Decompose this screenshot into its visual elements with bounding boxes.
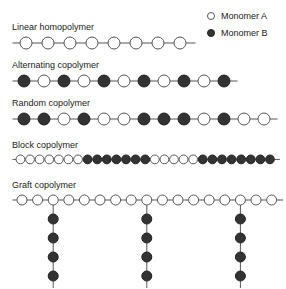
monomer-a-node <box>33 195 43 205</box>
monomer-b-node <box>256 155 265 164</box>
polymer-row-label: Alternating copolymer <box>12 60 238 71</box>
monomer-b-node <box>246 155 255 164</box>
monomer-a-node <box>267 195 277 205</box>
monomer-b-node <box>235 252 245 262</box>
monomer-a-node <box>170 155 179 164</box>
monomer-b-node <box>112 155 121 164</box>
monomer-a-node <box>16 155 25 164</box>
monomer-a-node <box>126 195 136 205</box>
polymer-chain <box>12 112 278 128</box>
polymer-chain <box>12 36 196 52</box>
monomer-a-node <box>160 155 169 164</box>
polymer-row: Random copolymer <box>12 98 278 128</box>
monomer-b-node <box>48 271 58 281</box>
monomer-a-node <box>64 37 76 49</box>
monomer-b-node <box>237 155 246 164</box>
monomer-b-node <box>142 233 152 243</box>
monomer-b-node <box>227 155 236 164</box>
monomer-a-node <box>79 195 89 205</box>
monomer-a-node <box>118 75 130 87</box>
monomer-b-node <box>83 155 92 164</box>
monomer-b-node <box>235 271 245 281</box>
legend-label-monomer-b: Monomer B <box>221 28 268 39</box>
monomer-a-node <box>142 195 152 205</box>
monomer-b-node <box>218 113 230 125</box>
monomer-a-node <box>173 195 183 205</box>
monomer-a-node <box>64 155 73 164</box>
polymer-chain <box>12 154 280 167</box>
monomer-b-node <box>98 75 110 87</box>
monomer-b-node <box>142 252 152 262</box>
monomer-b-node <box>18 75 30 87</box>
polymer-row: Block copolymer <box>12 140 280 167</box>
polymer-row: Linear homopolymer <box>12 22 196 52</box>
monomer-a-node <box>64 195 74 205</box>
polymer-row: Alternating copolymer <box>12 60 238 90</box>
monomer-a-node <box>20 37 32 49</box>
monomer-a-node <box>98 113 110 125</box>
monomer-a-node <box>118 113 130 125</box>
polymer-row-label: Linear homopolymer <box>12 22 196 33</box>
legend-label-monomer-a: Monomer A <box>221 11 267 22</box>
monomer-b-node <box>266 155 275 164</box>
monomer-a-node <box>157 195 167 205</box>
monomer-a-node <box>158 75 170 87</box>
legend-item-monomer-a: Monomer A <box>207 10 268 22</box>
monomer-b-node <box>208 155 217 164</box>
monomer-a-node <box>26 155 35 164</box>
monomer-a-node <box>130 37 142 49</box>
monomer-b-node <box>138 75 150 87</box>
monomer-b-node <box>218 75 230 87</box>
polymer-row-label: Block copolymer <box>12 140 280 151</box>
monomer-b-node <box>141 155 150 164</box>
monomer-a-node <box>17 195 27 205</box>
monomer-a-node <box>42 37 54 49</box>
monomer-a-node <box>95 195 105 205</box>
monomer-b-node <box>158 113 170 125</box>
monomer-b-node <box>178 75 190 87</box>
monomer-a-node <box>54 155 63 164</box>
monomer-a-node <box>35 155 44 164</box>
monomer-b-node <box>48 214 58 224</box>
polymer-row: Graft copolymer <box>12 180 284 289</box>
monomer-b-node <box>78 113 90 125</box>
monomer-b-node <box>122 155 131 164</box>
monomer-b-node <box>198 155 207 164</box>
polymer-row-label: Graft copolymer <box>12 180 284 191</box>
monomer-a-node <box>86 37 98 49</box>
monomer-a-node <box>204 195 214 205</box>
monomer-a-node <box>78 75 90 87</box>
monomer-a-node <box>152 37 164 49</box>
monomer-a-node <box>258 113 270 125</box>
polymer-chain <box>12 194 284 289</box>
monomer-a-node <box>189 195 199 205</box>
monomer-b-node <box>235 233 245 243</box>
monomer-a-node <box>198 75 210 87</box>
monomer-a-node <box>251 195 261 205</box>
monomer-a-node <box>235 195 245 205</box>
monomer-a-node <box>150 155 159 164</box>
monomer-b-node <box>142 271 152 281</box>
monomer-a-node <box>174 37 186 49</box>
legend-item-monomer-b: Monomer B <box>207 27 268 39</box>
monomer-a-node <box>238 113 250 125</box>
monomer-a-node <box>108 37 120 49</box>
monomer-b-node <box>48 233 58 243</box>
monomer-a-node <box>189 155 198 164</box>
monomer-a-node <box>74 155 83 164</box>
monomer-b-node <box>131 155 140 164</box>
monomer-a-node <box>48 195 58 205</box>
monomer-a-node <box>111 195 121 205</box>
monomer-b-node <box>235 214 245 224</box>
monomer-a-node <box>58 113 70 125</box>
monomer-b-node <box>142 214 152 224</box>
monomer-a-node <box>179 155 188 164</box>
open-circle-icon <box>207 12 215 20</box>
monomer-a-node <box>45 155 54 164</box>
monomer-b-node <box>102 155 111 164</box>
monomer-b-node <box>138 113 150 125</box>
polymer-row-label: Random copolymer <box>12 98 278 109</box>
monomer-b-node <box>18 113 30 125</box>
monomer-b-node <box>48 252 58 262</box>
